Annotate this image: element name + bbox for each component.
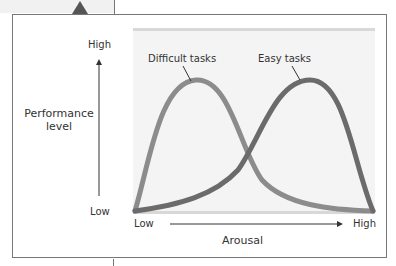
y-axis-title-line2: level <box>18 120 100 133</box>
y-axis-high-label: High <box>88 39 111 50</box>
x-axis-low-label: Low <box>134 218 154 229</box>
y-axis-title: Performance level <box>18 107 100 133</box>
y-axis-low-label: Low <box>90 206 110 217</box>
x-axis-high-label: High <box>353 218 376 229</box>
leader-line-difficult <box>183 66 191 81</box>
label-difficult-tasks: Difficult tasks <box>148 53 216 64</box>
chart-svg <box>0 0 396 266</box>
leader-line-easy <box>292 66 300 80</box>
y-axis-title-line1: Performance <box>18 107 100 120</box>
label-easy-tasks: Easy tasks <box>258 53 311 64</box>
x-axis-title: Arousal <box>222 234 263 247</box>
